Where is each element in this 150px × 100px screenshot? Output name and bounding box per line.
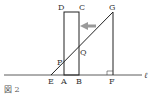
label-f: F xyxy=(109,77,115,86)
label-b: B xyxy=(76,77,82,86)
label-line-l: ℓ xyxy=(144,71,148,80)
rectangle-abcd xyxy=(64,12,79,75)
figure-caption: 図 2 xyxy=(4,85,20,94)
geometry-diagram: D C G Q P E A B F ℓ 図 2 xyxy=(0,0,150,100)
label-a: A xyxy=(60,77,67,86)
label-p: P xyxy=(57,58,63,67)
right-angle-mark xyxy=(107,71,113,75)
label-q: Q xyxy=(80,48,87,57)
label-e: E xyxy=(48,77,54,86)
label-d: D xyxy=(58,3,64,12)
label-g: G xyxy=(109,3,115,12)
arrow-left-icon xyxy=(80,22,96,30)
label-c: C xyxy=(79,3,85,12)
